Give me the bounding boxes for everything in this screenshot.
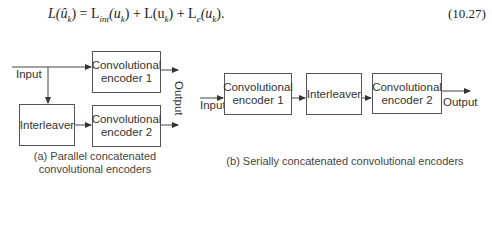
caption-a-line2: convolutional encoders [20, 163, 170, 176]
output-label-b: Output [443, 96, 478, 108]
input-label-a: Input [16, 68, 42, 80]
convolutional-encoder-1-b: Convolutional encoder 1 [224, 73, 292, 115]
input-label-b: Input [200, 99, 226, 111]
convolutional-encoder-1-a: Convolutional encoder 1 [92, 51, 161, 93]
interleaver-b: Interleaver [306, 73, 362, 115]
caption-a-line1: (a) Parallel concatenated [20, 150, 170, 163]
convolutional-encoder-2-b: Convolutional encoder 2 [372, 73, 442, 114]
caption-b: (b) Serially concatenated convolutional … [210, 155, 480, 168]
output-label-a: Output [173, 81, 185, 116]
interleaver-a: Interleaver [19, 104, 75, 146]
caption-a: (a) Parallel concatenated convolutional … [20, 150, 170, 176]
convolutional-encoder-2-a: Convolutional encoder 2 [92, 105, 161, 147]
